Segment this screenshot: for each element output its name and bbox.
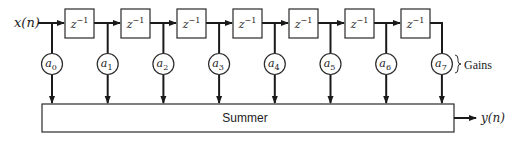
gains-annotation: Gains — [455, 55, 492, 73]
fir-filter-diagram: x(n) z−1z−1z−1z−1z−1z−1z−1 a0a1a2a3a4a5a… — [0, 0, 516, 142]
delay-box: z−1 — [345, 9, 374, 38]
gain-tap-3: a3 — [209, 23, 230, 103]
gain-tap-6: a6 — [376, 23, 397, 103]
gain-tap-5: a5 — [320, 23, 341, 103]
summer-block: Summer — [42, 104, 454, 132]
delay-box: z−1 — [289, 9, 318, 38]
gains-label: Gains — [464, 58, 492, 72]
gain-tap-0: a0 — [42, 23, 63, 103]
gain-tap-7: a7 — [431, 54, 452, 104]
gain-tap-4: a4 — [264, 23, 285, 103]
delay-box: z−1 — [401, 9, 430, 38]
input-label: x(n) — [14, 15, 40, 30]
gain-tap-1: a1 — [97, 23, 118, 103]
delay-box: z−1 — [233, 9, 262, 38]
summer-label: Summer — [222, 111, 267, 125]
gain-tap-2: a2 — [153, 23, 174, 103]
delay-box: z−1 — [65, 9, 94, 38]
delay-box: z−1 — [121, 9, 150, 38]
output-label: y(n) — [480, 111, 505, 125]
delay-box: z−1 — [177, 9, 206, 38]
brace-icon — [455, 55, 461, 73]
